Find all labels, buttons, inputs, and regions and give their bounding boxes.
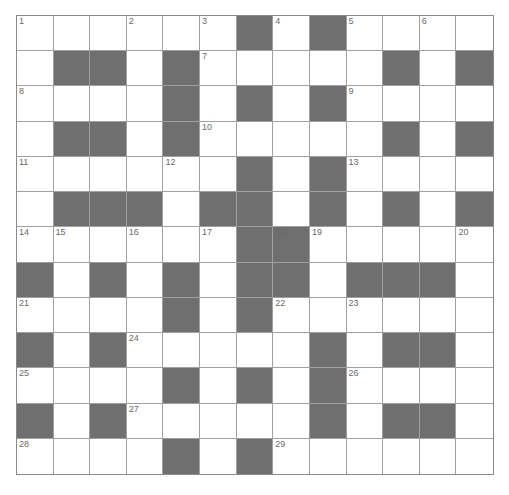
grid-cell[interactable] xyxy=(347,122,384,157)
grid-cell[interactable]: 3 xyxy=(200,16,237,51)
grid-cell[interactable]: 19 xyxy=(310,227,347,262)
grid-cell[interactable]: 17 xyxy=(200,227,237,262)
grid-cell[interactable]: 26 xyxy=(347,368,384,403)
grid-cell[interactable] xyxy=(420,157,457,192)
grid-cell[interactable]: 14 xyxy=(17,227,54,262)
grid-cell[interactable] xyxy=(237,122,274,157)
grid-cell[interactable] xyxy=(54,16,91,51)
grid-cell[interactable] xyxy=(456,298,493,333)
grid-cell[interactable] xyxy=(127,86,164,121)
grid-cell[interactable] xyxy=(383,227,420,262)
grid-cell[interactable] xyxy=(127,439,164,474)
grid-cell[interactable]: 22 xyxy=(273,298,310,333)
grid-cell[interactable] xyxy=(420,368,457,403)
grid-cell[interactable]: 29 xyxy=(273,439,310,474)
grid-cell[interactable] xyxy=(347,439,384,474)
grid-cell[interactable] xyxy=(273,51,310,86)
grid-cell[interactable]: 4 xyxy=(273,16,310,51)
grid-cell[interactable] xyxy=(127,298,164,333)
grid-cell[interactable] xyxy=(200,439,237,474)
grid-cell[interactable] xyxy=(127,263,164,298)
grid-cell[interactable] xyxy=(383,439,420,474)
grid-cell[interactable]: 5 xyxy=(347,16,384,51)
grid-cell[interactable] xyxy=(273,122,310,157)
grid-cell[interactable] xyxy=(383,157,420,192)
grid-cell[interactable] xyxy=(347,333,384,368)
grid-cell[interactable]: 7 xyxy=(200,51,237,86)
grid-cell[interactable] xyxy=(310,51,347,86)
grid-cell[interactable] xyxy=(17,122,54,157)
grid-cell[interactable]: 23 xyxy=(347,298,384,333)
grid-cell[interactable] xyxy=(273,157,310,192)
grid-cell[interactable] xyxy=(200,298,237,333)
grid-cell[interactable] xyxy=(200,86,237,121)
grid-cell[interactable]: 8 xyxy=(17,86,54,121)
grid-cell[interactable] xyxy=(383,86,420,121)
grid-cell[interactable] xyxy=(273,333,310,368)
grid-cell[interactable] xyxy=(347,404,384,439)
grid-cell[interactable] xyxy=(200,157,237,192)
grid-cell[interactable] xyxy=(456,16,493,51)
grid-cell[interactable]: 24 xyxy=(127,333,164,368)
grid-cell[interactable] xyxy=(420,439,457,474)
grid-cell[interactable] xyxy=(54,404,91,439)
grid-cell[interactable]: 21 xyxy=(17,298,54,333)
grid-cell[interactable] xyxy=(383,298,420,333)
grid-cell[interactable]: 11 xyxy=(17,157,54,192)
grid-cell[interactable] xyxy=(54,263,91,298)
grid-cell[interactable] xyxy=(383,16,420,51)
grid-cell[interactable]: 25 xyxy=(17,368,54,403)
grid-cell[interactable]: 20 xyxy=(456,227,493,262)
grid-cell[interactable] xyxy=(163,16,200,51)
grid-cell[interactable] xyxy=(273,404,310,439)
grid-cell[interactable] xyxy=(127,51,164,86)
grid-cell[interactable]: 6 xyxy=(420,16,457,51)
grid-cell[interactable] xyxy=(237,404,274,439)
grid-cell[interactable] xyxy=(90,86,127,121)
grid-cell[interactable] xyxy=(54,333,91,368)
grid-cell[interactable] xyxy=(347,227,384,262)
grid-cell[interactable] xyxy=(127,368,164,403)
grid-cell[interactable] xyxy=(54,86,91,121)
grid-cell[interactable] xyxy=(90,227,127,262)
grid-cell[interactable] xyxy=(163,192,200,227)
grid-cell[interactable]: 16 xyxy=(127,227,164,262)
grid-cell[interactable] xyxy=(420,51,457,86)
grid-cell[interactable] xyxy=(17,51,54,86)
grid-cell[interactable] xyxy=(90,298,127,333)
grid-cell[interactable] xyxy=(90,157,127,192)
grid-cell[interactable] xyxy=(420,86,457,121)
grid-cell[interactable] xyxy=(163,333,200,368)
grid-cell[interactable]: 15 xyxy=(54,227,91,262)
grid-cell[interactable] xyxy=(310,439,347,474)
grid-cell[interactable] xyxy=(456,439,493,474)
grid-cell[interactable] xyxy=(54,439,91,474)
grid-cell[interactable] xyxy=(310,122,347,157)
grid-cell[interactable] xyxy=(200,333,237,368)
grid-cell[interactable] xyxy=(456,157,493,192)
grid-cell[interactable]: 13 xyxy=(347,157,384,192)
grid-cell[interactable] xyxy=(237,333,274,368)
grid-cell[interactable] xyxy=(17,192,54,227)
grid-cell[interactable] xyxy=(420,192,457,227)
grid-cell[interactable] xyxy=(54,157,91,192)
grid-cell[interactable] xyxy=(310,263,347,298)
grid-cell[interactable] xyxy=(273,368,310,403)
grid-cell[interactable] xyxy=(456,368,493,403)
grid-cell[interactable] xyxy=(127,122,164,157)
grid-cell[interactable] xyxy=(420,122,457,157)
grid-cell[interactable] xyxy=(456,263,493,298)
grid-cell[interactable] xyxy=(273,86,310,121)
grid-cell[interactable] xyxy=(163,404,200,439)
grid-cell[interactable] xyxy=(54,298,91,333)
grid-cell[interactable] xyxy=(273,192,310,227)
grid-cell[interactable]: 28 xyxy=(17,439,54,474)
grid-cell[interactable] xyxy=(456,404,493,439)
grid-cell[interactable] xyxy=(456,333,493,368)
grid-cell[interactable] xyxy=(420,298,457,333)
grid-cell[interactable]: 9 xyxy=(347,86,384,121)
grid-cell[interactable] xyxy=(90,368,127,403)
grid-cell[interactable]: 10 xyxy=(200,122,237,157)
grid-cell[interactable] xyxy=(347,51,384,86)
grid-cell[interactable] xyxy=(383,368,420,403)
